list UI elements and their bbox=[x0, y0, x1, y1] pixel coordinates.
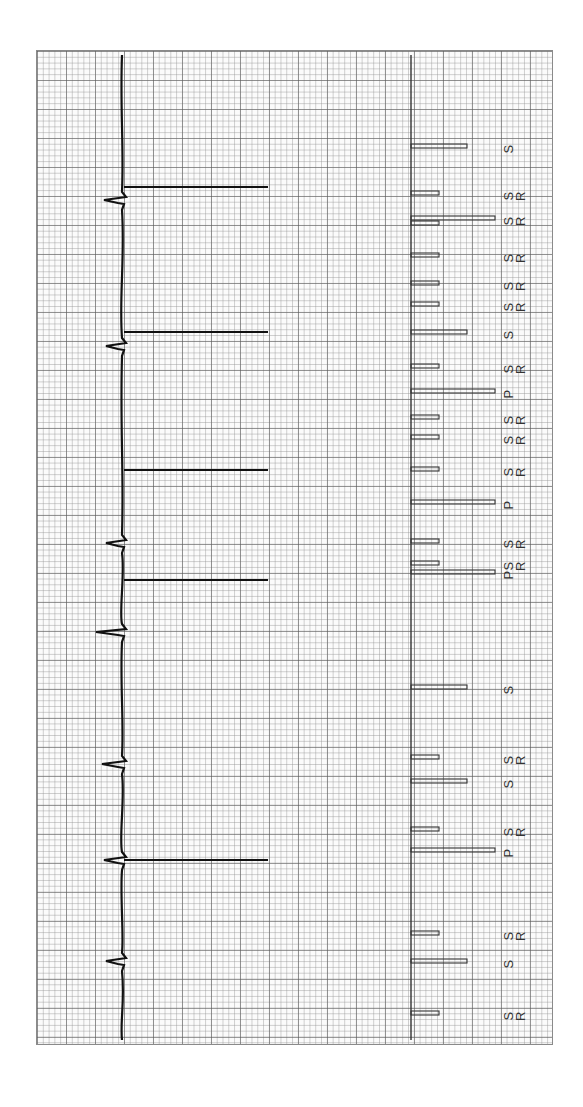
marker-label: P bbox=[501, 500, 516, 509]
marker-s bbox=[411, 330, 467, 334]
marker-label: P bbox=[501, 389, 516, 398]
ecg-chart: SSRSRSRSRSRSSRPSRSRSRPSRSRPSSRSSRPSRSSR bbox=[0, 0, 583, 1107]
marker-tick bbox=[411, 221, 439, 225]
marker-sr bbox=[411, 415, 439, 419]
marker-sr bbox=[411, 216, 495, 220]
marker-sr bbox=[411, 467, 439, 471]
ecg-waveform bbox=[96, 55, 126, 1040]
marker-p bbox=[411, 389, 495, 393]
marker-label: S bbox=[501, 685, 516, 694]
marker-sr bbox=[411, 253, 439, 257]
marker-sr bbox=[411, 827, 439, 831]
marker-label: SR bbox=[501, 435, 528, 445]
marker-label: SR bbox=[501, 281, 528, 291]
marker-label: SR bbox=[501, 755, 528, 765]
marker-p bbox=[411, 570, 495, 574]
marker-label: SR bbox=[501, 253, 528, 263]
marker-s bbox=[411, 779, 467, 783]
marker-s bbox=[411, 144, 467, 148]
marker-label: S bbox=[501, 330, 516, 339]
marker-label: SR bbox=[501, 539, 528, 549]
marker-sr bbox=[411, 364, 439, 368]
marker-label: SR bbox=[501, 191, 528, 201]
marker-label: P bbox=[501, 570, 516, 579]
marker-label: SR bbox=[501, 931, 528, 941]
marker-s bbox=[411, 685, 467, 689]
marker-label: SR bbox=[501, 216, 528, 226]
marker-label: SR bbox=[501, 302, 528, 312]
marker-p bbox=[411, 500, 495, 504]
pacer-marker-channel: SSRSRSRSRSRSSRPSRSRSRPSRSRPSSRSSRPSRSSR bbox=[411, 55, 528, 1040]
marker-label: SR bbox=[501, 467, 528, 477]
marker-sr bbox=[411, 755, 439, 759]
marker-label: SR bbox=[501, 561, 528, 571]
marker-label: SR bbox=[501, 415, 528, 425]
marker-sr bbox=[411, 931, 439, 935]
marker-sr bbox=[411, 302, 439, 306]
marker-label: SR bbox=[501, 364, 528, 374]
marker-label: S bbox=[501, 779, 516, 788]
marker-label: SR bbox=[501, 1011, 528, 1021]
marker-sr bbox=[411, 281, 439, 285]
marker-sr bbox=[411, 1011, 439, 1015]
marker-p bbox=[411, 848, 495, 852]
marker-sr bbox=[411, 539, 439, 543]
ecg-trace bbox=[96, 55, 268, 1040]
marker-sr bbox=[411, 435, 439, 439]
marker-sr bbox=[411, 561, 439, 565]
marker-label: P bbox=[501, 848, 516, 857]
marker-label: S bbox=[501, 959, 516, 968]
marker-s bbox=[411, 959, 467, 963]
marker-label: SR bbox=[501, 827, 528, 837]
marker-sr bbox=[411, 191, 439, 195]
marker-label: S bbox=[501, 144, 516, 153]
